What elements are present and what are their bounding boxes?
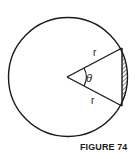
radius-label-upper: r [93, 47, 97, 58]
shaded-segment [122, 47, 132, 107]
circle-segment-diagram: r r θ [0, 0, 138, 159]
radius-lower [67, 77, 122, 106]
angle-label: θ [86, 72, 92, 84]
figure-caption: FIGURE 74 [80, 142, 127, 152]
radius-label-lower: r [91, 95, 95, 106]
